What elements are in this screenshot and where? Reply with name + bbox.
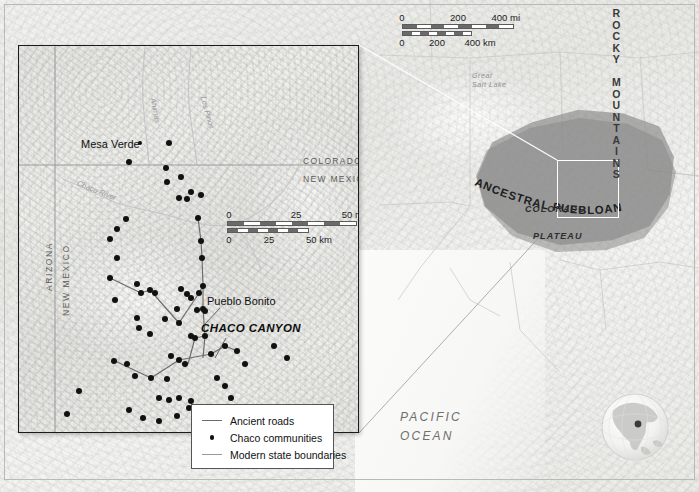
label-state-colorado: COLORADO xyxy=(303,156,359,166)
overview-scale-bar: 0 200 400 mi 0 200 400 km xyxy=(402,12,514,48)
chaco-canyon-detail-map: Mesa Verde Pueblo Bonito CHACO CANYON CO… xyxy=(18,45,359,433)
legend-label-ancient-roads: Ancient roads xyxy=(230,415,294,427)
label-chaco-canyon: CHACO CANYON xyxy=(201,322,301,334)
community-dot-icon xyxy=(199,435,225,440)
globe-locator xyxy=(597,389,673,465)
legend-item-state-boundaries: Modern state boundaries xyxy=(192,446,333,463)
map-legend: Ancient roads Chaco communities Modern s… xyxy=(191,404,334,469)
label-great-salt-lake: Great Salt Lake xyxy=(472,72,507,89)
label-colorado-plateau-line2: PLATEAU xyxy=(533,231,583,241)
legend-item-ancient-roads: Ancient roads xyxy=(192,412,333,429)
label-colorado-plateau-line1: COLORADO xyxy=(525,204,586,214)
chaco-community-dots xyxy=(64,140,290,431)
inset-scale-bar: 0 25 50 mi 0 25 50 km xyxy=(227,209,359,245)
overview-scale-bar-miles xyxy=(402,24,514,29)
legend-item-chaco-communities: Chaco communities xyxy=(192,429,333,446)
inset-scale-bar-miles xyxy=(227,221,357,226)
legend-label-state-boundaries: Modern state boundaries xyxy=(230,449,346,461)
label-mesa-verde: Mesa Verde xyxy=(81,138,140,150)
inset-scale-ticks-kilometers: 0 25 50 km xyxy=(227,233,359,245)
state-boundary-line-icon xyxy=(199,454,225,455)
overview-scale-ticks-miles: 0 200 400 mi xyxy=(402,12,514,24)
label-state-new-mexico-vertical: NEW MEXICO xyxy=(61,244,71,316)
label-state-new-mexico: NEW MEXICO xyxy=(303,174,359,184)
label-pacific-ocean: PACIFIC OCEAN xyxy=(400,408,462,446)
globe-location-marker xyxy=(635,421,642,428)
map-figure: ANCESTRAL PUEBLOAN CULTURAL AREA ROCKY M… xyxy=(0,0,699,492)
legend-label-chaco-communities: Chaco communities xyxy=(230,432,322,444)
overview-scale-ticks-kilometers: 0 200 400 km xyxy=(402,36,514,48)
label-state-arizona-vertical: ARIZONA xyxy=(44,242,54,291)
ancient-road-line-icon xyxy=(199,420,225,421)
inset-scale-ticks-miles: 0 25 50 mi xyxy=(227,209,359,221)
label-rocky-mountains: ROCKY MOUNTAINS xyxy=(612,8,623,181)
label-pueblo-bonito: Pueblo Bonito xyxy=(207,295,276,307)
